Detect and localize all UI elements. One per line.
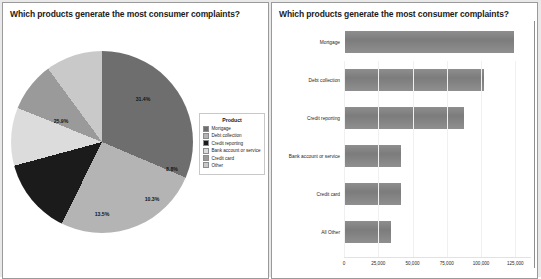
x-tick-label: 0 <box>343 261 346 266</box>
bar-row: Mortgage <box>276 27 531 57</box>
pie-chart-area: 31.4% 25.9% 13.5% 10.3% 8.8% <box>9 29 199 259</box>
bar-panel-title: Which products generate the most consume… <box>279 9 509 19</box>
pie-legend: Product MortgageDebt collectionCredit re… <box>199 113 265 175</box>
bar-rect[interactable] <box>344 30 515 54</box>
legend-title: Product <box>203 117 261 123</box>
pie-chart-panel: Which products generate the most consume… <box>2 2 269 279</box>
legend-swatch-icon <box>203 148 209 154</box>
legend-items: MortgageDebt collectionCredit reportingB… <box>203 126 261 169</box>
pie-slice-label-mortgage: 31.4% <box>136 96 151 102</box>
bar-category-label: All Other <box>276 230 340 235</box>
legend-swatch-icon <box>203 155 209 161</box>
bar-row: All Other <box>276 217 531 247</box>
bar-chart-panel: Which products generate the most consume… <box>271 2 538 279</box>
bar-chart-area: MortgageDebt collectionCredit reportingB… <box>276 25 531 272</box>
bar-rect[interactable] <box>344 144 402 168</box>
gridline <box>515 61 516 257</box>
bar-rect[interactable] <box>344 182 402 206</box>
x-tick-label: 75,000 <box>440 261 454 266</box>
legend-item[interactable]: Credit reporting <box>203 140 261 146</box>
legend-item-label: Other <box>212 163 224 168</box>
x-tick-label: 50,000 <box>405 261 419 266</box>
bar-category-label: Bank account or service <box>276 154 340 159</box>
x-tick-label: 125,000 <box>507 261 524 266</box>
bar-row: Bank account or service <box>276 141 531 171</box>
gridline <box>344 61 345 257</box>
legend-swatch-icon <box>203 126 209 132</box>
legend-item-label: Debt collection <box>212 133 242 138</box>
bar-x-axis: 025,00050,00075,000100,000125,000 <box>344 257 531 258</box>
legend-item-label: Mortgage <box>212 126 231 131</box>
gridline <box>481 61 482 257</box>
legend-item-label: Credit card <box>212 156 234 161</box>
legend-item[interactable]: Mortgage <box>203 126 261 132</box>
pie-slice-label-credit-reporting: 13.5% <box>95 211 110 217</box>
legend-item[interactable]: Debt collection <box>203 133 261 139</box>
pie-graphic[interactable] <box>11 51 193 233</box>
legend-swatch-icon <box>203 162 209 168</box>
bar-rect[interactable] <box>344 220 392 244</box>
bar-rect[interactable] <box>344 68 485 92</box>
pie-slice-label-credit-card: 8.8% <box>166 166 178 172</box>
gridline <box>378 61 379 257</box>
bar-category-label: Credit reporting <box>276 116 340 121</box>
pie-slice-label-debt-collection: 25.9% <box>54 118 69 124</box>
pie-panel-title: Which products generate the most consume… <box>10 9 240 19</box>
legend-swatch-icon <box>203 140 209 146</box>
x-tick-label: 25,000 <box>371 261 385 266</box>
axis-baseline <box>344 257 531 258</box>
legend-item[interactable]: Bank account or service <box>203 148 261 154</box>
bar-category-label: Debt collection <box>276 78 340 83</box>
legend-item[interactable]: Other <box>203 162 261 168</box>
legend-item-label: Bank account or service <box>212 148 261 153</box>
bar-row: Credit card <box>276 179 531 209</box>
pie-slice-label-bank-account: 10.3% <box>145 196 160 202</box>
bar-category-label: Credit card <box>276 192 340 197</box>
x-tick-label: 100,000 <box>473 261 490 266</box>
bar-row: Debt collection <box>276 65 531 95</box>
bar-category-label: Mortgage <box>276 40 340 45</box>
legend-swatch-icon <box>203 133 209 139</box>
gridline <box>413 61 414 257</box>
bar-row: Credit reporting <box>276 103 531 133</box>
panel-right-rule <box>534 21 535 268</box>
gridline <box>447 61 448 257</box>
legend-item[interactable]: Credit card <box>203 155 261 161</box>
legend-item-label: Credit reporting <box>212 141 244 146</box>
